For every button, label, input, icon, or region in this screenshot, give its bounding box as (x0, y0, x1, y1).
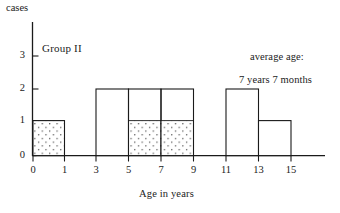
x-tick-label-11: 11 (219, 164, 233, 176)
x-tick-label-7: 7 (154, 164, 168, 176)
x-tick-label-13: 13 (252, 164, 266, 176)
x-tick-label-9: 9 (187, 164, 201, 176)
x-tick-label-3: 3 (89, 164, 103, 176)
x-axis-title: Age in years (139, 188, 194, 200)
average-age-annotation: average age: 7 years 7 months (239, 39, 312, 110)
y-tick-label-0: 0 (11, 149, 25, 161)
bar-fill (129, 121, 162, 156)
bar-outline (96, 89, 129, 156)
bar-chart: cases Age in years Group II average age:… (0, 0, 340, 213)
bar-outline (259, 121, 292, 156)
y-tick-label-1: 1 (11, 114, 25, 126)
x-tick-label-5: 5 (122, 164, 136, 176)
x-tick-label-15: 15 (284, 164, 298, 176)
group-label: Group II (42, 42, 82, 54)
x-tick-marks (33, 156, 291, 162)
bar-fill (161, 121, 194, 156)
x-tick-label-0: 0 (26, 164, 40, 176)
average-age-value: 7 years 7 months (239, 74, 312, 86)
bar-0-1 (33, 121, 65, 156)
bar-fill (33, 121, 65, 156)
y-tick-label-3: 3 (11, 49, 25, 61)
average-age-label: average age: (250, 51, 304, 62)
bar-7-9 (161, 89, 194, 156)
bar-13-15 (259, 121, 292, 156)
y-axis-title: cases (6, 2, 28, 14)
x-tick-label-1: 1 (58, 164, 72, 176)
bar-3-5 (96, 89, 129, 156)
bar-5-7 (129, 89, 162, 156)
y-tick-label-2: 2 (11, 82, 25, 94)
